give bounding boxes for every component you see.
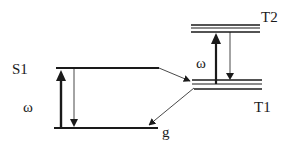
label-t2: T2	[261, 9, 278, 25]
intersystem-crossing-arrow	[159, 68, 190, 81]
label-s1: S1	[12, 61, 28, 77]
label-omega-triplet: ω	[196, 55, 206, 71]
absorption-arrow-t1-t2	[211, 33, 221, 84]
level-t2	[191, 25, 260, 32]
label-g: g	[162, 124, 170, 140]
label-t1: T1	[254, 99, 271, 115]
level-t1	[192, 80, 262, 89]
absorption-arrow-s1	[56, 70, 66, 128]
jablonski-diagram: S1 ω g T2 T1 ω	[0, 0, 286, 146]
emission-arrow-s1	[70, 68, 78, 127]
label-omega-singlet: ω	[23, 99, 33, 115]
relaxation-arrow-t2-t1	[226, 32, 234, 80]
triplet-decay-arrow	[149, 88, 194, 125]
